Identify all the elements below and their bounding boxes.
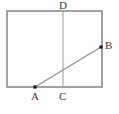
point-D-label: D (59, 0, 67, 11)
point-B-label: B (105, 40, 112, 51)
geometry-figure: ABCD (0, 0, 119, 114)
point-A-marker (33, 85, 36, 88)
point-C-label: C (59, 91, 66, 102)
segment-AB (35, 47, 101, 87)
point-A-label: A (31, 91, 39, 102)
point-B-marker (99, 45, 102, 48)
